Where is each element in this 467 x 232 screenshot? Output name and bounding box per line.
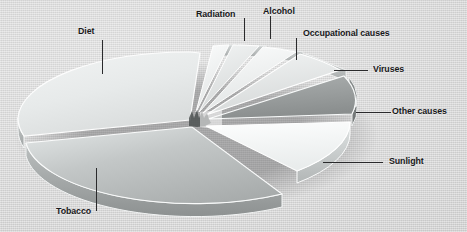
slice-label-occupational-causes: Occupational causes: [303, 28, 390, 38]
radiation-leader: [244, 18, 245, 41]
slice-label-diet: Diet: [78, 26, 94, 36]
slice-label-alcohol: Alcohol: [263, 6, 295, 16]
pie-chart-figure: Diet Radiation Alcohol Occupational caus…: [0, 0, 467, 232]
alcohol-leader: [270, 16, 271, 39]
slice-label-tobacco: Tobacco: [56, 206, 91, 216]
slice-label-other-causes: Other causes: [392, 106, 447, 116]
pie-chart-graphic: [0, 0, 467, 232]
sunlight-leader: [323, 162, 383, 163]
viruses-leader: [334, 70, 368, 71]
slice-label-viruses: Viruses: [373, 64, 404, 74]
tobacco-leader: [96, 168, 97, 211]
slice-label-radiation: Radiation: [196, 9, 235, 19]
pie-center-glow: [200, 110, 222, 130]
slice-label-sunlight: Sunlight: [389, 156, 424, 166]
diet-leader: [102, 40, 103, 74]
other-causes-leader: [356, 112, 391, 113]
occupational-causes-leader: [296, 38, 297, 60]
